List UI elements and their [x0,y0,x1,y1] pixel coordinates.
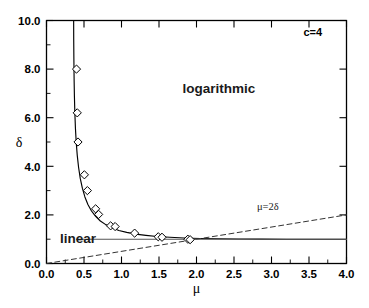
x-axis-tick-label: 2.0 [189,268,205,280]
parameter-annotation: c=4 [303,26,323,38]
x-axis-tick-label: 1.5 [151,268,168,280]
phase-boundary-curve [74,21,347,240]
data-point-marker [80,171,88,179]
x-axis-tick-label: 0.5 [76,268,93,280]
x-axis-tick-label: 4.0 [339,268,355,280]
chart-canvas: 0.00.51.01.52.02.53.03.54.00.02.04.06.08… [0,0,369,308]
mu-equals-2delta-label: μ=2δ [257,201,279,212]
y-axis-tick-label: 6.0 [25,112,41,124]
x-axis-tick-label: 0.0 [39,268,55,280]
y-axis-tick-label: 4.0 [25,161,41,173]
y-axis-title: δ [16,135,23,150]
y-axis-tick-label: 2.0 [25,209,41,221]
x-axis-tick-label: 3.0 [264,268,280,280]
logarithmic-region-label: logarithmic [183,81,256,96]
linear-region-label: linear [60,231,97,246]
data-point-marker [74,138,82,146]
x-axis-tick-label: 3.5 [301,268,318,280]
x-axis-tick-label: 2.5 [226,268,243,280]
phase-diagram-figure: 0.00.51.01.52.02.53.03.54.00.02.04.06.08… [0,0,369,308]
data-point-marker [131,229,139,237]
y-axis-tick-label: 0.0 [25,258,41,270]
x-axis-tick-label: 1.0 [114,268,130,280]
plot-frame [47,21,347,264]
y-axis-tick-label: 8.0 [25,63,41,75]
x-axis-title: μ [193,281,201,296]
y-axis-tick-label: 10.0 [18,15,40,27]
data-point-marker [83,187,91,195]
